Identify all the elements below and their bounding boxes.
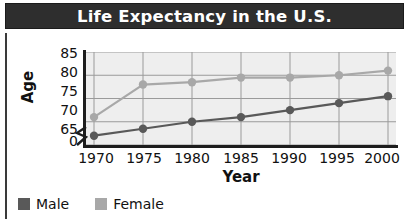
figure-left-border xyxy=(5,33,7,219)
page-title: Life Expectancy in the U.S. xyxy=(77,7,332,26)
legend-swatch-male-icon xyxy=(18,198,30,210)
chart-legend: Male Female xyxy=(18,196,164,212)
legend-swatch-female-icon xyxy=(95,198,107,210)
legend-item-female: Female xyxy=(95,196,164,212)
legend-label-male: Male xyxy=(36,196,69,212)
y-tick-label-80: 80 xyxy=(38,65,78,79)
data-point-male-1970 xyxy=(90,132,98,140)
x-tick-label-1975: 1975 xyxy=(119,150,169,166)
x-axis-label: Year xyxy=(86,168,396,186)
x-tick-label-2000: 2000 xyxy=(357,150,407,166)
x-axis-line xyxy=(83,145,398,148)
data-point-female-1975 xyxy=(139,80,147,88)
y-axis-tick-labels: 85 80 75 70 65 0 xyxy=(38,0,78,223)
x-tick-label-1985: 1985 xyxy=(216,150,266,166)
plot-area xyxy=(86,52,396,145)
x-tick-label-1980: 1980 xyxy=(167,150,217,166)
y-tick-label-85: 85 xyxy=(38,46,78,60)
x-tick-label-1995: 1995 xyxy=(312,150,362,166)
legend-item-male: Male xyxy=(18,196,69,212)
x-tick-label-1990: 1990 xyxy=(264,150,314,166)
x-tick-label-1970: 1970 xyxy=(71,150,121,166)
legend-label-female: Female xyxy=(113,196,164,212)
y-tick-label-70: 70 xyxy=(38,103,78,117)
data-point-female-1995 xyxy=(335,71,343,79)
y-axis-label: Age xyxy=(19,57,37,117)
data-point-male-1980 xyxy=(188,118,196,126)
data-point-male-1995 xyxy=(335,99,343,107)
data-point-female-1990 xyxy=(286,73,294,81)
data-point-male-1985 xyxy=(237,113,245,121)
data-point-female-2000 xyxy=(384,66,392,74)
life-expectancy-chart-figure: Life Expectancy in the U.S. Age 85 80 75… xyxy=(0,0,409,223)
data-point-female-1970 xyxy=(90,113,98,121)
data-point-male-2000 xyxy=(384,92,392,100)
data-point-male-1975 xyxy=(139,125,147,133)
y-tick-label-0: 0 xyxy=(38,134,78,148)
data-point-male-1990 xyxy=(286,106,294,114)
y-axis-break-icon xyxy=(74,126,90,146)
chart-canvas xyxy=(86,52,396,145)
data-point-female-1980 xyxy=(188,78,196,86)
data-point-female-1985 xyxy=(237,73,245,81)
y-tick-label-75: 75 xyxy=(38,84,78,98)
